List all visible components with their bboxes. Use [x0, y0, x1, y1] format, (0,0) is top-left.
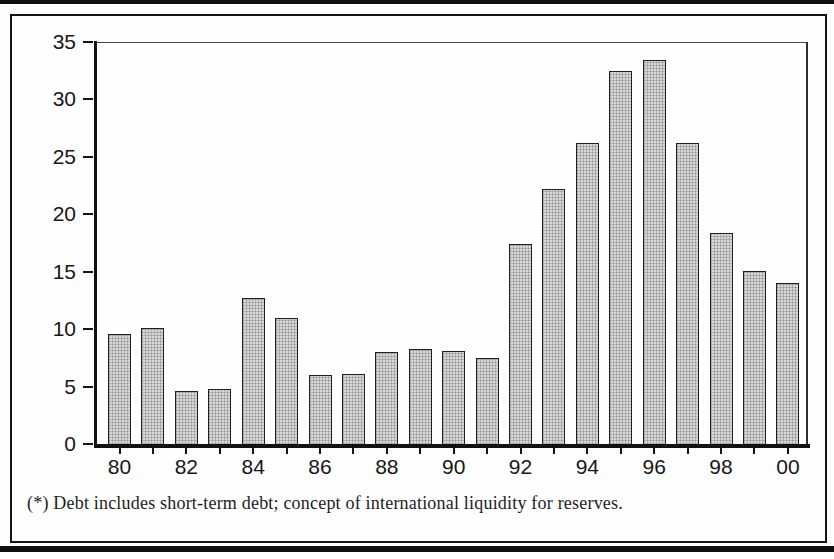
bar-1987 [342, 374, 365, 444]
y-tick-label-20: 20 [30, 203, 76, 225]
y-tick-label-25: 25 [30, 146, 76, 168]
x-tick-1986 [319, 448, 321, 454]
footnote: (*) Debt includes short-term debt; conce… [27, 493, 807, 514]
x-tick-label-2000: 00 [765, 456, 811, 478]
x-tick-label-1996: 96 [631, 456, 677, 478]
bottom-rule [0, 546, 834, 552]
x-tick-label-1990: 90 [431, 456, 477, 478]
plot-top-border [96, 42, 808, 43]
x-tick-label-1982: 82 [163, 456, 209, 478]
y-axis-line [94, 41, 97, 447]
figure-frame: 051015202530358082848688909294969800 (*)… [10, 14, 827, 543]
y-tick-label-35: 35 [30, 31, 76, 53]
x-tick-1991 [486, 448, 488, 454]
bar-2000 [776, 283, 799, 444]
y-tick-30 [83, 98, 93, 100]
x-tick-label-1998: 98 [698, 456, 744, 478]
bar-chart: 051015202530358082848688909294969800 [96, 42, 808, 444]
x-tick-1982 [185, 448, 187, 454]
x-tick-1990 [453, 448, 455, 454]
bar-1988 [375, 352, 398, 444]
x-tick-1981 [152, 448, 154, 454]
bar-1992 [509, 244, 532, 444]
x-axis-line [94, 444, 810, 448]
x-tick-1985 [286, 448, 288, 454]
x-tick-1980 [119, 448, 121, 454]
y-tick-10 [83, 328, 93, 330]
x-tick-label-1988: 88 [364, 456, 410, 478]
x-tick-1984 [252, 448, 254, 454]
y-tick-25 [83, 156, 93, 158]
y-tick-35 [83, 41, 93, 43]
x-tick-label-1986: 86 [297, 456, 343, 478]
bar-1994 [576, 143, 599, 444]
bar-1998 [710, 233, 733, 444]
y-tick-15 [83, 271, 93, 273]
x-tick-1988 [386, 448, 388, 454]
figure-page: 051015202530358082848688909294969800 (*)… [0, 0, 834, 559]
bar-1996 [643, 60, 666, 444]
bar-1993 [542, 189, 565, 444]
y-tick-0 [83, 443, 93, 445]
bar-1991 [476, 358, 499, 444]
bar-1983 [208, 389, 231, 444]
y-tick-label-10: 10 [30, 318, 76, 340]
x-tick-1995 [620, 448, 622, 454]
bar-1989 [409, 349, 432, 444]
x-tick-1989 [419, 448, 421, 454]
bar-1980 [108, 334, 131, 444]
bar-1984 [242, 298, 265, 444]
bar-1981 [141, 328, 164, 444]
x-tick-1997 [687, 448, 689, 454]
x-tick-1994 [586, 448, 588, 454]
x-tick-1983 [219, 448, 221, 454]
x-tick-1992 [520, 448, 522, 454]
plot-right-border [806, 42, 808, 444]
y-tick-20 [83, 213, 93, 215]
y-tick-label-5: 5 [30, 376, 76, 398]
bar-1985 [275, 318, 298, 444]
x-tick-2000 [787, 448, 789, 454]
top-rule [0, 0, 834, 4]
x-tick-1993 [553, 448, 555, 454]
x-tick-label-1994: 94 [564, 456, 610, 478]
x-tick-label-1984: 84 [230, 456, 276, 478]
bar-1990 [442, 351, 465, 444]
bar-1986 [309, 375, 332, 444]
x-tick-1987 [352, 448, 354, 454]
y-tick-label-30: 30 [30, 88, 76, 110]
bar-1997 [676, 143, 699, 444]
y-tick-5 [83, 386, 93, 388]
bar-1999 [743, 271, 766, 444]
y-tick-label-15: 15 [30, 261, 76, 283]
bar-1995 [609, 71, 632, 444]
x-tick-label-1992: 92 [498, 456, 544, 478]
bar-1982 [175, 391, 198, 444]
x-tick-1998 [720, 448, 722, 454]
x-tick-label-1980: 80 [97, 456, 143, 478]
y-tick-label-0: 0 [30, 433, 76, 455]
x-tick-1996 [653, 448, 655, 454]
x-tick-1999 [753, 448, 755, 454]
